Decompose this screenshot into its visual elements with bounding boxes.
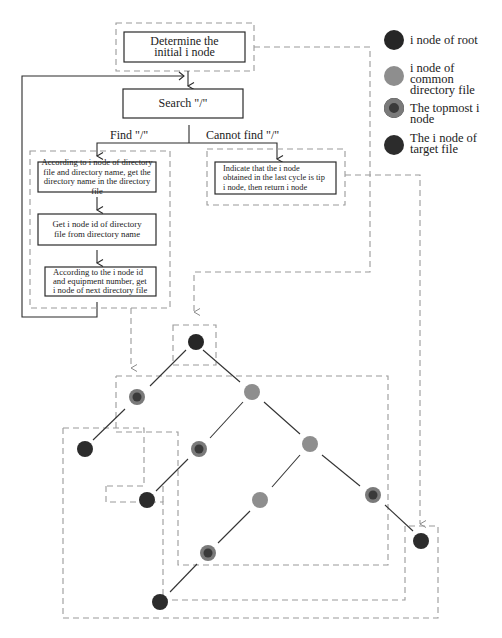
step2-label: Get i node id of directory file from dir… xyxy=(38,214,156,245)
cannot-find-label: Cannot find "/" xyxy=(206,129,279,142)
legend-item-target: The i node of target file xyxy=(384,133,480,155)
tree-regions xyxy=(63,325,438,618)
topmost-node xyxy=(129,389,145,405)
determine-box-label: Determine the initial i node xyxy=(124,32,245,62)
find-label: Find "/" xyxy=(110,129,148,142)
legend-item-root: i node of root xyxy=(384,30,478,50)
topmost-node xyxy=(200,545,216,561)
common-directory-node xyxy=(244,384,260,400)
common-directory-node-icon xyxy=(384,66,404,86)
target-node xyxy=(77,441,93,457)
return-box-label: Indicate that the i node obtained in the… xyxy=(215,162,336,194)
target-node xyxy=(139,492,155,508)
topmost-region-2 xyxy=(63,428,144,486)
topmost-node xyxy=(191,441,207,457)
common-directory-node xyxy=(302,436,318,452)
topmost-region-1 xyxy=(116,376,388,565)
step1-label: According to i node of directory file an… xyxy=(38,162,156,192)
outer-region xyxy=(63,428,438,618)
search-box-label: Search "/" xyxy=(123,89,243,118)
root-node-icon xyxy=(384,30,404,50)
step3-label: According to the i node id and equipment… xyxy=(45,267,156,296)
target-node xyxy=(413,533,429,549)
target-node xyxy=(152,594,168,610)
topmost-node xyxy=(365,487,381,503)
topmost-node-icon xyxy=(384,98,404,118)
common-directory-node xyxy=(252,492,268,508)
legend-item-common: i node of common directory file xyxy=(384,63,498,96)
legend-item-topmost: The topmost i node xyxy=(384,98,502,125)
root-node xyxy=(188,334,204,350)
target-node-icon xyxy=(384,135,404,155)
tree-nodes xyxy=(77,334,429,610)
